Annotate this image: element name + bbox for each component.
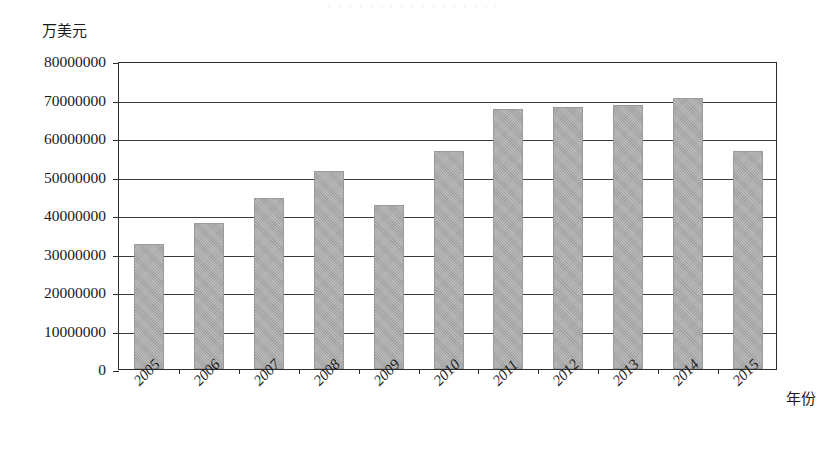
x-axis-title: 年份: [786, 392, 816, 407]
y-axis-tick-mark: [113, 256, 119, 257]
y-axis-unit-label: 万美元: [42, 22, 87, 40]
bar-2013: [613, 105, 643, 369]
x-axis-tick-mark: [239, 369, 240, 374]
x-axis-tick-mark: [538, 369, 539, 374]
bar-2009: [374, 205, 404, 369]
y-axis-tick-mark: [113, 371, 119, 372]
x-axis-tick-mark: [598, 369, 599, 374]
bar-2012: [553, 107, 583, 369]
y-axis-tick-mark: [113, 140, 119, 141]
bar-2010: [434, 151, 464, 369]
bar-chart-figure: · · · · · · · · · · · · · · · · · 万美元 年份…: [0, 0, 827, 449]
y-axis-tick-label: 80000000: [0, 54, 106, 70]
y-axis-tick-mark: [113, 217, 119, 218]
y-axis-tick-mark: [113, 333, 119, 334]
bar-2007: [254, 198, 284, 369]
plot-area: [118, 62, 777, 370]
y-axis-tick-mark: [113, 63, 119, 64]
bar-2005: [134, 244, 164, 369]
x-axis-tick-mark: [718, 369, 719, 374]
y-axis-tick-label: 0: [0, 362, 106, 378]
x-axis-tick-mark: [359, 369, 360, 374]
y-axis-tick-label: 10000000: [0, 324, 106, 340]
y-axis-tick-mark: [113, 102, 119, 103]
y-axis-tick-label: 20000000: [0, 285, 106, 301]
x-axis-tick-mark: [179, 369, 180, 374]
y-axis-tick-label: 50000000: [0, 170, 106, 186]
y-axis-tick-label: 40000000: [0, 208, 106, 224]
y-axis-tick-mark: [113, 294, 119, 295]
y-axis-tick-mark: [113, 179, 119, 180]
bar-2015: [733, 151, 763, 369]
x-axis-tick-mark: [478, 369, 479, 374]
bar-2008: [314, 171, 344, 369]
y-axis-tick-label: 30000000: [0, 247, 106, 263]
y-axis-tick-label: 70000000: [0, 93, 106, 109]
bar-2011: [493, 109, 523, 369]
y-axis-tick-label: 60000000: [0, 131, 106, 147]
bar-2014: [673, 98, 703, 369]
clipped-header-text: · · · · · · · · · · · · · · · · ·: [0, 0, 827, 12]
bar-2006: [194, 223, 224, 369]
x-axis-tick-mark: [299, 369, 300, 374]
x-axis-tick-mark: [419, 369, 420, 374]
x-axis-tick-mark: [658, 369, 659, 374]
